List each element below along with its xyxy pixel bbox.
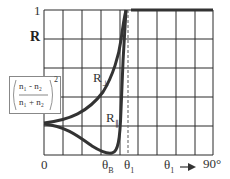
theta-arrow-sub: 1: [170, 166, 174, 175]
r-par-sub: ∥: [115, 119, 119, 128]
y-tick-one: 1: [34, 4, 41, 17]
r-perp-text: R: [93, 70, 102, 85]
x-tick-90: 90°: [203, 157, 221, 170]
r-par-text: R: [106, 110, 115, 125]
x-axis-label: θ1: [164, 158, 174, 175]
x-tick-theta-1: θ1: [124, 158, 134, 175]
formula-box: n₁ - n₂ n₁ + n₂ 2: [9, 76, 61, 114]
r-perp-sub: ⊥: [102, 79, 109, 88]
r-perp-label: R⊥: [93, 71, 109, 88]
right-arrow-icon: [180, 163, 196, 171]
x-tick-zero: 0: [41, 158, 48, 171]
formula-denominator: n₁ + n₂: [19, 98, 44, 107]
formula-numerator: n₁ - n₂: [19, 82, 42, 91]
r-par-label: R∥: [106, 111, 119, 128]
theta-1-sub: 1: [130, 166, 134, 175]
x-tick-theta-b: θB: [102, 158, 114, 175]
theta-b-sub: B: [108, 166, 113, 175]
y-axis-label: R: [30, 30, 40, 44]
formula-exponent: 2: [54, 76, 58, 84]
